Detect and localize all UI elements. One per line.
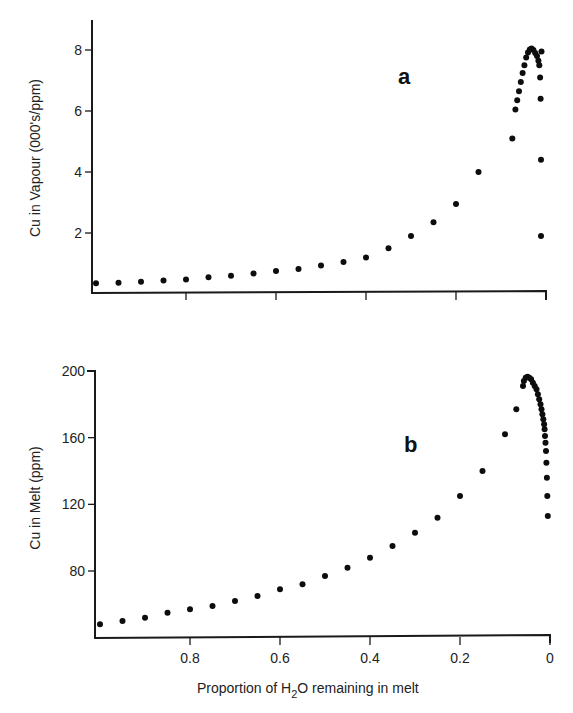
y-axis-label-vapour: Cu in Vapour (000's/ppm) [27,79,43,237]
y-tick-label: 160 [62,430,86,446]
y-axis-label-melt: Cu in Melt (ppm) [27,446,43,549]
data-point [535,391,541,397]
y-tick-label: 2 [74,225,82,241]
data-point [390,543,396,549]
x-axis-ticks-melt: 0.80.60.40.20 [180,637,554,666]
data-point [542,426,548,432]
y-tick-label: 120 [62,496,86,512]
data-point [542,433,548,439]
data-point [318,263,324,269]
y-tick-label: 4 [74,164,82,180]
data-point [480,468,486,474]
data-point [228,273,234,279]
data-point [518,79,524,85]
data-point [538,401,544,407]
data-point [543,448,549,454]
data-point [183,276,189,282]
data-point [116,280,122,286]
data-point [543,440,549,446]
data-point [509,136,515,142]
x-tick-label: 0.6 [270,650,290,666]
data-point [120,618,126,624]
data-point [363,254,369,260]
data-point [476,169,482,175]
data-point [545,513,551,519]
data-point [536,62,542,68]
data-point [206,274,212,280]
data-point [536,396,542,402]
data-point [431,219,437,225]
data-point [210,603,216,609]
y-tick-label: 6 [74,103,82,119]
data-point [367,555,373,561]
data-point [538,96,544,102]
x-tick-label: 0.4 [360,650,380,666]
data-point [341,259,347,265]
y-axis-ticks-melt: 80120160200 [62,363,95,579]
data-point [512,107,518,113]
y-axis-ticks-vapour: 2468 [74,42,92,241]
data-point [544,493,550,499]
data-point [523,55,529,61]
data-point [408,233,414,239]
panel-label-a: a [398,64,411,89]
data-point [521,62,527,68]
data-point [251,271,257,277]
panel-b-cu-melt: 80120160200 0.80.60.40.20 b Cu in Melt (… [27,363,554,666]
data-point [543,460,549,466]
y-tick-label: 200 [62,363,86,379]
data-point [277,586,283,592]
data-point [544,475,550,481]
axes-frame-melt [87,371,550,643]
x-tick-label: 0.2 [450,650,470,666]
data-point [322,573,328,579]
data-point [520,70,526,76]
data-point [538,233,544,239]
axes-frame-vapour [92,20,546,300]
data-points-melt [97,374,551,628]
data-point [345,565,351,571]
data-point [138,279,144,285]
data-point [520,383,526,389]
data-point [300,581,306,587]
data-point [435,515,441,521]
data-point [142,615,148,621]
data-point [161,278,167,284]
chart-figure: 2468 a Cu in Vapour (000's/ppm) 80120160… [0,0,573,713]
data-points-vapour [93,46,545,287]
data-point [255,593,261,599]
data-point [187,606,193,612]
x-tick-label: 0.8 [180,650,200,666]
data-point [93,280,99,286]
data-point [539,49,545,55]
data-point [540,416,546,422]
data-point [537,75,543,81]
data-point [457,493,463,499]
data-point [165,610,171,616]
x-axis-label: Proportion of H2O remaining in melt [197,680,419,700]
data-point [97,621,103,627]
data-point [453,201,459,207]
data-point [502,431,508,437]
x-tick-label: 0 [546,650,554,666]
data-point [516,88,522,94]
data-point [539,406,545,412]
data-point [539,411,545,417]
y-tick-label: 8 [74,42,82,58]
x-axis-label-prefix: Proportion of H [197,680,291,696]
data-point [296,266,302,272]
data-point [513,406,519,412]
data-point [273,268,279,274]
panel-label-b: b [404,432,417,457]
data-point [538,157,544,163]
x-axis-label-suffix: O remaining in melt [297,680,418,696]
data-point [386,245,392,251]
data-point [514,97,520,103]
data-point [232,598,238,604]
y-tick-label: 80 [69,563,85,579]
data-point [412,530,418,536]
panel-a-cu-vapour: 2468 a Cu in Vapour (000's/ppm) [27,20,546,300]
